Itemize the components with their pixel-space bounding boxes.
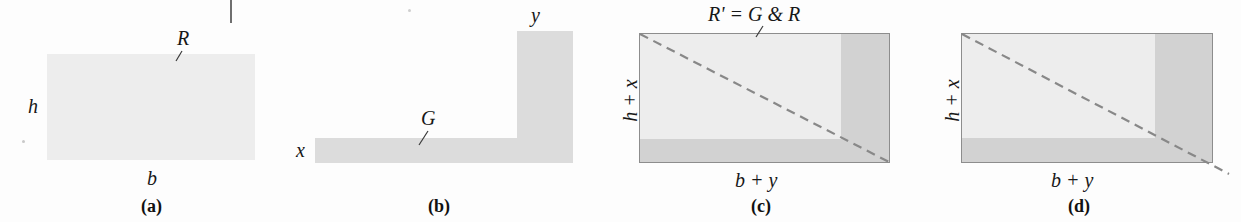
panel-d-diagonal-dashed-line [962, 34, 1229, 174]
figure-canvas: R h b (a) x y G (b) R' = G & [0, 0, 1241, 222]
panel-d-caption: (d) [1068, 196, 1090, 217]
panel-d-label-height: h + x [941, 66, 964, 136]
panel-d: h + x b + y (d) [0, 0, 1241, 222]
panel-d-label-width: b + y [1051, 170, 1093, 190]
